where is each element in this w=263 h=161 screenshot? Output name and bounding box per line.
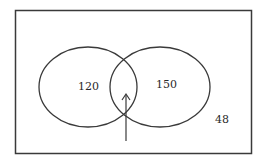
venn-diagram: 120 150 48 xyxy=(0,0,263,161)
left-only-value: 120 xyxy=(78,80,99,93)
outside-value: 48 xyxy=(215,113,229,126)
universal-set-rectangle xyxy=(16,11,252,154)
right-only-value: 150 xyxy=(156,78,177,91)
intersection-arrow-icon xyxy=(122,94,130,141)
